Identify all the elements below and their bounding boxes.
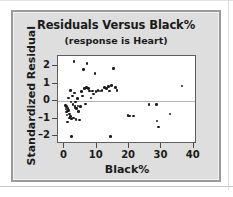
scatter-point (181, 85, 184, 88)
x-axis-tick (63, 143, 64, 148)
scatter-point (116, 89, 119, 92)
outer-rule-right (228, 0, 229, 190)
scatter-point (92, 93, 95, 96)
scatter-point (155, 103, 158, 106)
scatter-point (109, 135, 112, 138)
scatter-point (71, 95, 74, 98)
x-axis-label: Black% (57, 163, 197, 176)
residual-plot-figure: Residuals Versus Black% (response is Hea… (0, 0, 233, 197)
chart-subtitle: (response is Heart) (11, 35, 221, 46)
scatter-point (73, 92, 76, 95)
scatter-point (73, 60, 76, 63)
scatter-point (79, 105, 82, 108)
scatter-point (80, 90, 83, 93)
scatter-point (90, 97, 93, 100)
scatter-point (70, 135, 73, 138)
scatter-point (86, 62, 89, 65)
scatter-point (169, 113, 172, 116)
y-axis-tick-label: –2 (26, 130, 50, 140)
x-axis-tick (128, 143, 129, 148)
scatter-point (67, 109, 70, 112)
scatter-point (74, 101, 77, 104)
outer-rule-top (0, 0, 233, 1)
x-axis-tick (160, 143, 161, 148)
scatter-point (105, 87, 108, 90)
y-axis-tick-label: 2 (26, 60, 50, 70)
x-axis-tick-label: 20 (115, 150, 141, 160)
x-axis-tick-label: 30 (147, 150, 173, 160)
scatter-point (110, 84, 113, 87)
scatter-point (76, 97, 79, 100)
scatter-point (67, 97, 70, 100)
scatter-point (157, 126, 160, 129)
scatter-point (128, 115, 131, 118)
scatter-point (69, 89, 72, 92)
scatter-point (156, 120, 159, 123)
scatter-point (132, 115, 135, 118)
scatter-point (77, 110, 80, 113)
scatter-point (84, 103, 87, 106)
x-axis-tick-label: 40 (180, 150, 206, 160)
scatter-point (148, 103, 151, 106)
scatter-point (94, 72, 97, 75)
scatter-point (66, 121, 69, 124)
scatter-point (101, 89, 104, 92)
x-axis-tick-label: 0 (50, 150, 76, 160)
scatter-point (82, 68, 85, 71)
y-axis-tick-label: –1 (26, 113, 50, 123)
outer-rule-bottom (0, 186, 233, 187)
scatter-point (91, 90, 94, 93)
scatter-point (75, 118, 78, 121)
chart-title: Residuals Versus Black% (11, 18, 221, 32)
x-axis-tick (96, 143, 97, 148)
plot-area (57, 55, 196, 143)
scatter-point (112, 67, 115, 70)
scatter-point (108, 90, 111, 93)
scatter-point (78, 119, 81, 122)
scatter-point (107, 85, 110, 88)
y-axis-tick-label: 1 (26, 78, 50, 88)
y-axis-tick-label: 0 (26, 95, 50, 105)
zero-reference-line (58, 101, 195, 102)
x-axis-tick (193, 143, 194, 148)
x-axis-tick-label: 10 (83, 150, 109, 160)
scatter-point (81, 95, 84, 98)
